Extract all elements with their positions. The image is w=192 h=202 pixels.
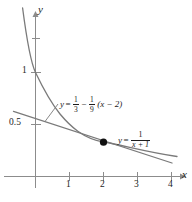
x-tick-label-3: 3 (134, 180, 139, 190)
curve-eq-denominator: x + 1 (131, 140, 150, 150)
curve-eq-fraction: 1 x + 1 (131, 131, 150, 149)
tangent-eq-term1-denominator: 3 (73, 104, 79, 113)
curve-eq-numerator: 1 (138, 131, 144, 140)
tangent-eq-minus: − (81, 100, 86, 109)
tangent-eq-lhs: y (60, 100, 64, 109)
y-axis-label: y (38, 4, 43, 15)
tangent-equation-label: y = 1 3 − 1 9 (x − 2) (60, 96, 122, 113)
x-tick-label-2: 2 (100, 180, 105, 190)
x-axis-label: x (182, 169, 187, 180)
tangent-eq-fraction-one-ninth: 1 9 (89, 96, 95, 113)
y-tick-label-0point5: 0.5 (9, 118, 21, 128)
annotation-leader-line (45, 104, 58, 122)
tangent-eq-term1-numerator: 1 (73, 96, 79, 104)
tangent-eq-term2-numerator: 1 (89, 96, 95, 104)
x-tick-label-1: 1 (66, 180, 71, 190)
reciprocal-curve (23, 8, 177, 157)
curve-eq-equals: = (124, 136, 129, 145)
y-tick-label-1: 1 (22, 66, 27, 76)
tangent-eq-equals: = (66, 100, 71, 109)
curve-equation-label: y = 1 x + 1 (118, 131, 151, 149)
tangent-eq-factor: (x − 2) (97, 100, 122, 109)
tangency-point-dot (100, 139, 107, 146)
figure-container: y x 1 0.5 1 2 3 4 y = 1 3 − 1 9 (x − 2) … (0, 0, 192, 202)
curve-eq-lhs: y (118, 136, 122, 145)
tangent-eq-term2-denominator: 9 (89, 104, 95, 113)
x-tick-label-4: 4 (168, 180, 173, 190)
tangent-eq-fraction-one-third: 1 3 (73, 96, 79, 113)
